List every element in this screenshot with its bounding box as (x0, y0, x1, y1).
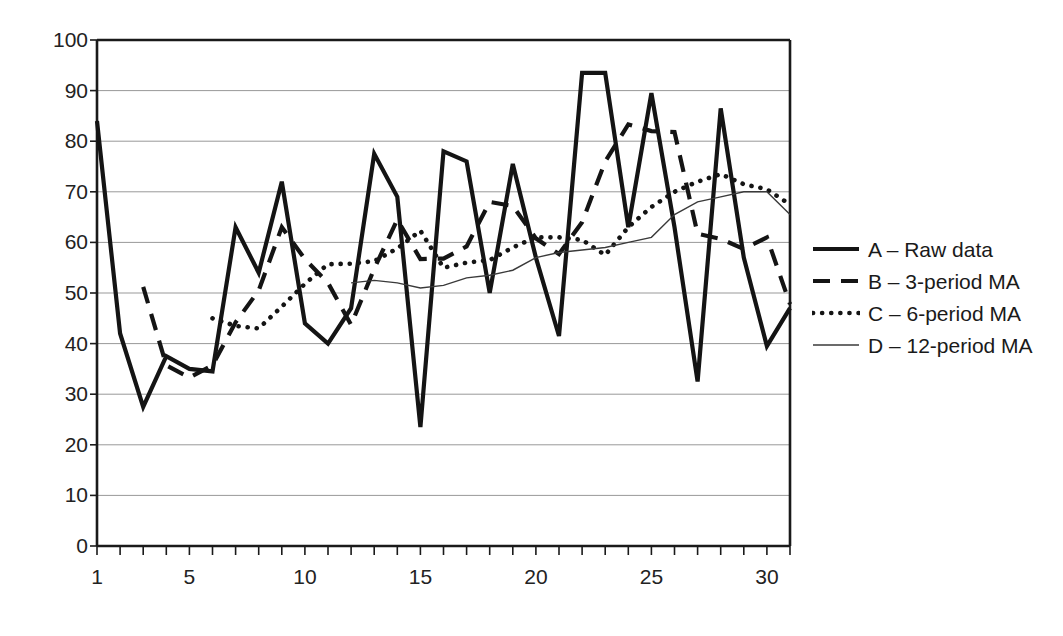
legend-item-B[interactable]: B – 3-period MA (812, 265, 1057, 297)
y-tick-label: 80 (30, 130, 88, 151)
y-tick-label: 40 (30, 333, 88, 354)
x-tick-label: 30 (737, 566, 797, 587)
y-tick-label: 70 (30, 181, 88, 202)
chart-legend: A – Raw dataB – 3-period MAC – 6-period … (812, 233, 1057, 361)
xtick-marks-group (97, 546, 790, 555)
chart-container: 1009080706050403020100 151015202530 A – … (0, 0, 1063, 636)
y-tick-label: 0 (30, 535, 88, 556)
legend-label: B – 3-period MA (868, 271, 1020, 292)
legend-item-C[interactable]: C – 6-period MA (812, 297, 1057, 329)
legend-label: A – Raw data (868, 239, 993, 260)
y-tick-label: 10 (30, 484, 88, 505)
solid-thin-swatch-icon (812, 338, 860, 352)
x-tick-label: 20 (506, 566, 566, 587)
legend-label: D – 12-period MA (868, 335, 1033, 356)
x-tick-label: 25 (621, 566, 681, 587)
legend-label: C – 6-period MA (868, 303, 1021, 324)
legend-item-D[interactable]: D – 12-period MA (812, 329, 1057, 361)
y-tick-label: 20 (30, 434, 88, 455)
x-tick-label: 10 (275, 566, 335, 587)
y-tick-label: 30 (30, 383, 88, 404)
x-tick-label: 1 (67, 566, 127, 587)
dotted-swatch-icon (812, 306, 860, 320)
legend-item-A[interactable]: A – Raw data (812, 233, 1057, 265)
dashed-swatch-icon (812, 274, 860, 288)
y-tick-label: 100 (30, 29, 88, 50)
x-tick-label: 5 (159, 566, 219, 587)
y-tick-label: 60 (30, 231, 88, 252)
series-lines-group (97, 73, 790, 427)
series-line-A (97, 73, 790, 427)
x-tick-label: 15 (390, 566, 450, 587)
gridlines-group (97, 40, 790, 495)
y-tick-label: 90 (30, 80, 88, 101)
solid-thick-swatch-icon (812, 242, 860, 256)
y-tick-label: 50 (30, 282, 88, 303)
